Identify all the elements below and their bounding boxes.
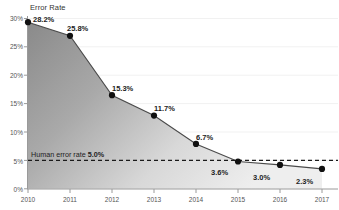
- data-point-label: 6.7%: [196, 133, 213, 142]
- data-point-marker: [235, 158, 241, 164]
- data-point-marker: [151, 113, 157, 119]
- human-error-rate-text: Human error rate: [31, 150, 88, 159]
- data-point-marker: [67, 33, 73, 39]
- data-point-marker: [25, 19, 31, 25]
- human-error-rate-value: 5.0%: [88, 150, 104, 159]
- data-point-marker: [109, 92, 115, 98]
- human-error-rate-annotation: Human error rate 5.0%: [31, 150, 104, 159]
- data-point-label: 28.2%: [33, 15, 54, 24]
- data-point-label: 3.6%: [211, 168, 228, 177]
- data-point-label: 25.8%: [67, 24, 88, 33]
- data-point-label: 3.0%: [253, 173, 270, 182]
- error-rate-chart: Error Rate 30% 25% 20% 15% 10% 5% 0% 201…: [0, 0, 339, 210]
- data-point-label: 11.7%: [154, 104, 175, 113]
- x-axis-ticks: [28, 189, 322, 193]
- data-point-marker: [319, 166, 325, 172]
- y-axis-ticks: [24, 19, 28, 189]
- data-point-label: 2.3%: [296, 177, 313, 186]
- data-point-label: 15.3%: [112, 84, 133, 93]
- data-point-marker: [277, 162, 283, 168]
